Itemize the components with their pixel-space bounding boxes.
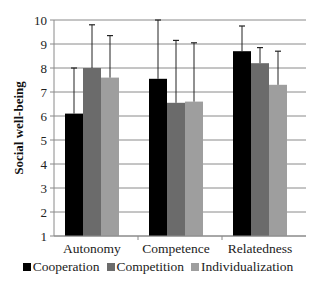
y-tick-label: 9 xyxy=(41,37,48,52)
bar-competition xyxy=(167,103,185,236)
legend-item-competition: Competition xyxy=(107,259,185,275)
legend-swatch-icon xyxy=(191,263,199,271)
legend-swatch-icon xyxy=(107,263,115,271)
y-tick-label: 10 xyxy=(34,13,47,28)
legend-label: Individualization xyxy=(201,259,293,275)
bar-individualization xyxy=(185,102,203,236)
y-tick-label: 8 xyxy=(41,61,48,76)
bar-individualization xyxy=(101,78,119,236)
legend-item-individualization: Individualization xyxy=(191,259,293,275)
bar-chart: 12345678910 AutonomyCompetenceRelatednes… xyxy=(0,0,316,288)
y-tick-label: 2 xyxy=(41,205,48,220)
y-axis-label: Social well-being xyxy=(11,81,26,175)
bar-competition xyxy=(83,68,101,236)
y-tick-label: 7 xyxy=(41,85,48,100)
y-tick-label: 4 xyxy=(41,157,48,172)
category-label: Autonomy xyxy=(63,241,121,256)
category-label: Relatedness xyxy=(228,241,292,256)
bar-individualization xyxy=(269,85,287,236)
y-tick-label: 1 xyxy=(41,229,48,244)
y-tick-label: 5 xyxy=(41,133,48,148)
bar-competition xyxy=(251,63,269,236)
category-labels: AutonomyCompetenceRelatedness xyxy=(63,241,292,256)
y-tick-label: 6 xyxy=(41,109,48,124)
legend: CooperationCompetitionIndividualization xyxy=(0,259,316,275)
bar-cooperation xyxy=(233,51,251,236)
legend-swatch-icon xyxy=(23,263,31,271)
bar-cooperation xyxy=(65,114,83,236)
category-label: Competence xyxy=(142,241,209,256)
legend-label: Cooperation xyxy=(33,259,100,275)
y-axis-ticks: 12345678910 xyxy=(34,13,54,244)
bar-cooperation xyxy=(149,79,167,236)
legend-label: Competition xyxy=(117,259,185,275)
legend-item-cooperation: Cooperation xyxy=(23,259,100,275)
y-tick-label: 3 xyxy=(41,181,48,196)
